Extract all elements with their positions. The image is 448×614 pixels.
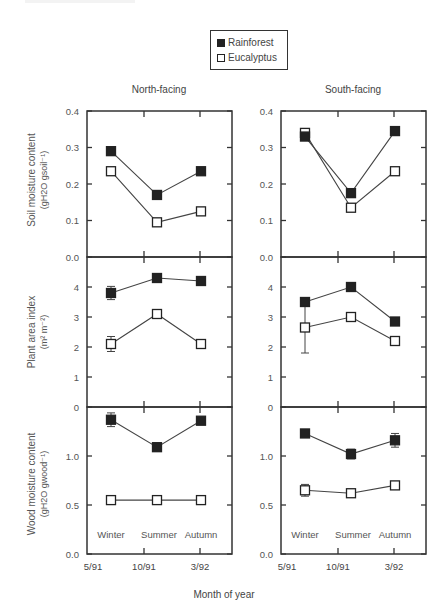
y-tick-label: 2 [268,342,273,353]
filled-square-marker [197,167,206,176]
y-tick-label: 3 [74,312,79,323]
x-tick-label: 5/91 [278,561,297,572]
y-tick-label: 0 [74,402,79,413]
open-square-marker [391,167,400,176]
filled-square-marker [153,190,162,199]
filled-square-marker [153,443,162,452]
open-square-marker [347,489,356,498]
open-square-marker [197,340,206,349]
open-square-marker [391,337,400,346]
y-tick-label: 0 [268,402,273,413]
x-tick-label: 3/92 [385,561,404,572]
x-tick-label: 5/91 [84,561,103,572]
open-square-marker [301,323,310,332]
y-tick-label: 4 [268,282,273,293]
y-tick-label: 2 [74,342,79,353]
filled-square-marker [391,127,400,136]
filled-square-marker [391,317,400,326]
filled-square-marker [391,436,400,445]
y-tick-label: 0.1 [66,215,79,226]
filled-square-marker [197,416,206,425]
y-tick-label: 0.4 [66,106,79,117]
filled-square-marker [301,298,310,307]
y-tick-label: 0.2 [66,179,79,190]
season-label: Summer [141,529,177,540]
open-square-marker [347,313,356,322]
y-tick-label: 0.3 [260,142,273,153]
open-square-marker [107,340,116,349]
y-tick-label: 0.5 [260,500,273,511]
x-tick-label: 10/91 [132,561,156,572]
series-line [305,131,395,193]
x-tick-label: 10/91 [326,561,350,572]
open-square-marker [153,218,162,227]
y-tick-label: 0.0 [66,252,79,263]
filled-square-marker [347,189,356,198]
y-tick-label: 0.3 [66,142,79,153]
filled-square-marker [107,415,116,424]
figure-panels: 0.00.10.20.30.40.00.10.20.30.40123401234… [0,0,448,614]
open-square-marker [107,167,116,176]
y-tick-label: 1.0 [66,451,79,462]
filled-square-marker [107,289,116,298]
series-line [111,151,201,195]
open-square-marker [301,486,310,495]
open-square-marker [153,310,162,319]
open-square-marker [197,496,206,505]
open-square-marker [153,496,162,505]
y-tick-label: 0.1 [260,215,273,226]
y-tick-label: 1 [74,372,79,383]
panel-frame [87,111,232,257]
x-tick-label: 3/92 [191,561,210,572]
y-tick-label: 0.2 [260,179,273,190]
y-tick-label: 0.0 [260,549,273,560]
filled-square-marker [153,274,162,283]
filled-square-marker [347,450,356,459]
y-tick-label: 1 [268,372,273,383]
season-label: Autumn [379,529,412,540]
open-square-marker [197,207,206,216]
season-label: Winter [291,529,318,540]
season-label: Winter [97,529,124,540]
season-label: Summer [335,529,371,540]
filled-square-marker [347,283,356,292]
y-tick-label: 0.0 [260,252,273,263]
y-tick-label: 0.4 [260,106,273,117]
y-tick-label: 0.5 [66,500,79,511]
open-square-marker [391,481,400,490]
y-tick-label: 1.0 [260,451,273,462]
open-square-marker [347,203,356,212]
filled-square-marker [301,132,310,141]
season-label: Autumn [185,529,218,540]
y-tick-label: 0.0 [66,549,79,560]
open-square-marker [107,496,116,505]
y-tick-label: 3 [268,312,273,323]
filled-square-marker [197,277,206,286]
filled-square-marker [301,429,310,438]
filled-square-marker [107,147,116,156]
y-tick-label: 4 [74,282,79,293]
